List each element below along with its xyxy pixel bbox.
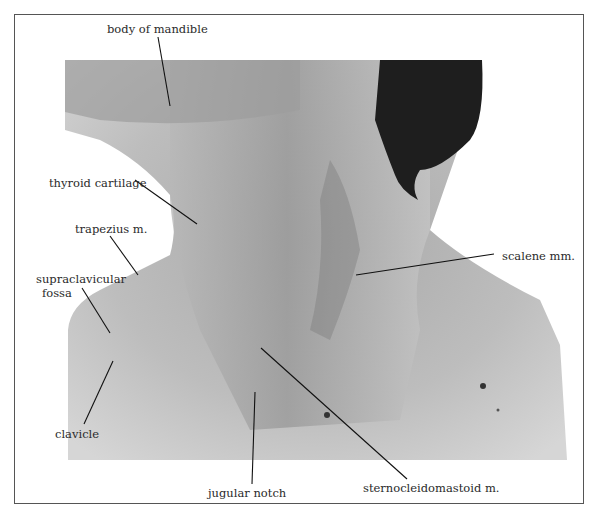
label-thyroid-cartilage: thyroid cartilage [49, 176, 146, 190]
label-supraclavicular-fossa-line2: fossa [42, 286, 72, 300]
label-trapezius: trapezius m. [75, 222, 147, 236]
label-sternocleidomastoid: sternocleidomastoid m. [363, 481, 500, 495]
label-body-of-mandible: body of mandible [107, 22, 208, 36]
label-scalene: scalene mm. [502, 249, 575, 263]
label-jugular-notch: jugular notch [208, 486, 286, 500]
label-supraclavicular-fossa-line1: supraclavicular [36, 272, 126, 286]
label-clavicle: clavicle [55, 427, 99, 441]
